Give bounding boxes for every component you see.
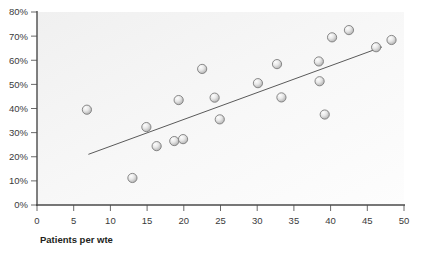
y-tick-label: 50% [9, 79, 29, 90]
data-point [320, 110, 329, 119]
data-point [215, 115, 224, 124]
y-tick-label: 0% [14, 199, 28, 210]
data-point [344, 25, 353, 34]
y-tick-label: 60% [9, 55, 29, 66]
data-point [170, 136, 179, 145]
y-tick-label: 80% [9, 6, 29, 17]
y-tick-label: 20% [9, 151, 29, 162]
x-axis-title: Patients per wte [40, 234, 113, 245]
x-tick-label: 0 [34, 215, 39, 226]
y-axis-ticks [31, 12, 37, 205]
scatter-chart: 0%10%20%30%40%50%60%70%80% 0510152025303… [0, 0, 421, 261]
y-tick-label: 70% [9, 31, 29, 42]
x-tick-label: 25 [215, 215, 226, 226]
data-point [152, 142, 161, 151]
plot-background [37, 12, 404, 205]
x-tick-label: 45 [362, 215, 373, 226]
data-point [142, 122, 151, 131]
x-tick-label: 5 [71, 215, 76, 226]
data-point [178, 135, 187, 144]
data-point [198, 64, 207, 73]
data-point [82, 105, 91, 114]
y-tick-label: 30% [9, 127, 29, 138]
data-point [174, 95, 183, 104]
data-point [314, 57, 323, 66]
y-tick-label: 40% [9, 103, 29, 114]
x-tick-label: 10 [105, 215, 116, 226]
x-tick-label: 30 [252, 215, 263, 226]
y-tick-label: 10% [9, 175, 29, 186]
data-point [277, 93, 286, 102]
x-axis-ticks [37, 205, 404, 211]
x-tick-label: 50 [399, 215, 410, 226]
y-axis-tick-labels: 0%10%20%30%40%50%60%70%80% [9, 6, 29, 210]
x-tick-label: 35 [289, 215, 300, 226]
data-point [272, 60, 281, 69]
chart-canvas: 0%10%20%30%40%50%60%70%80% 0510152025303… [0, 0, 421, 261]
data-point [387, 35, 396, 44]
data-point [210, 93, 219, 102]
x-axis-tick-labels: 05101520253035404550 [34, 215, 409, 226]
data-point [128, 173, 137, 182]
data-point [253, 79, 262, 88]
data-point [372, 43, 381, 52]
data-point [327, 33, 336, 42]
x-tick-label: 20 [179, 215, 190, 226]
x-tick-label: 40 [325, 215, 336, 226]
data-point [315, 77, 324, 86]
x-tick-label: 15 [142, 215, 153, 226]
